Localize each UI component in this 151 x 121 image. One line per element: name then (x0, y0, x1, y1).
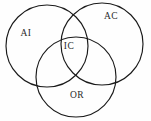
venn-diagram-canvas: AI AC IC OR (0, 0, 151, 121)
venn-diagram: AI AC IC OR (0, 0, 151, 121)
label-ac: AC (104, 11, 118, 21)
label-ai: AI (21, 28, 32, 38)
label-ic: IC (64, 41, 74, 51)
label-or: OR (70, 90, 84, 100)
circle-ai[interactable] (6, 5, 88, 87)
circle-or[interactable] (36, 37, 116, 117)
